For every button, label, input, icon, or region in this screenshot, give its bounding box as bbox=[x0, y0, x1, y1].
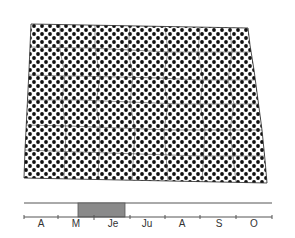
range-map bbox=[0, 0, 295, 195]
month-label-may: M bbox=[72, 219, 80, 229]
month-label-july: Ju bbox=[142, 219, 153, 229]
highlight-period-bar bbox=[78, 203, 125, 217]
month-label-september: S bbox=[216, 219, 223, 229]
month-label-april: A bbox=[38, 219, 45, 229]
timeline-axis bbox=[0, 195, 295, 238]
month-label-august: A bbox=[179, 219, 186, 229]
month-label-june: Je bbox=[108, 219, 119, 229]
month-label-october: O bbox=[250, 219, 258, 229]
phenology-timeline: A M Je Ju A S O bbox=[0, 195, 295, 238]
